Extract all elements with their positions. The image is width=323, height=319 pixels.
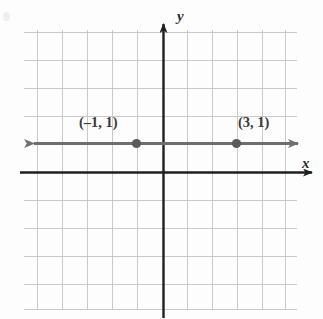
point-label-a: (–1, 1) [79, 114, 118, 131]
coordinate-graph-figure: y x (–1, 1) (3, 1) [0, 0, 323, 319]
x-axis-label: x [302, 155, 310, 172]
plot-point-b [232, 139, 241, 148]
y-axis-label: y [177, 8, 184, 25]
point-label-b: (3, 1) [238, 114, 269, 131]
graph-canvas [0, 0, 323, 319]
grid-vertical-lines [38, 30, 286, 310]
plot-point-a [132, 139, 141, 148]
grid-horizontal-lines [24, 33, 297, 310]
